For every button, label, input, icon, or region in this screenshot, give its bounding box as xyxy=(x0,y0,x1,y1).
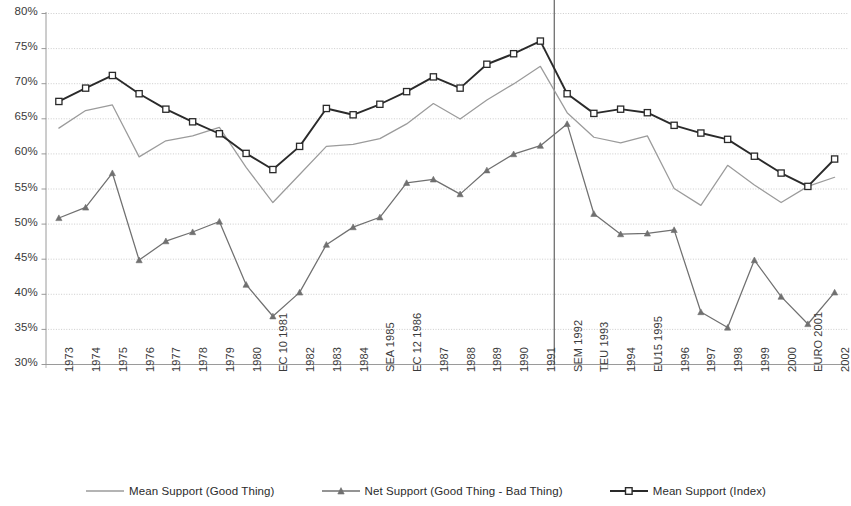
y-axis-label: 60% xyxy=(0,145,38,157)
x-axis-label: 1988 xyxy=(465,347,477,372)
data-point-marker xyxy=(564,121,570,127)
data-point-marker xyxy=(270,166,276,172)
data-point-marker xyxy=(216,218,222,224)
axis-lines xyxy=(42,12,849,368)
y-axis-label: 80% xyxy=(0,5,38,17)
x-axis-label: SEA 1985 xyxy=(384,322,396,372)
y-axis-label: 30% xyxy=(0,356,38,368)
x-axis-label: 1980 xyxy=(251,347,263,372)
data-point-marker xyxy=(725,324,731,330)
y-axis-label: 75% xyxy=(0,40,38,52)
series-line xyxy=(59,124,835,328)
x-axis-label: 1989 xyxy=(491,347,503,372)
data-point-marker xyxy=(751,257,757,263)
data-point-marker xyxy=(751,153,757,159)
legend-label: Net Support (Good Thing - Bad Thing) xyxy=(365,485,563,497)
x-axis-label: TEU 1993 xyxy=(598,322,610,372)
x-axis-label: 1979 xyxy=(224,347,236,372)
data-point-marker xyxy=(457,85,463,91)
chart-container: 80%75%70%65%60%55%50%45%40%35%30% 197319… xyxy=(0,0,851,506)
legend-label: Mean Support (Good Thing) xyxy=(129,485,274,497)
x-axis-label: 1987 xyxy=(438,347,450,372)
series-2 xyxy=(56,121,838,330)
data-point-marker xyxy=(243,282,249,288)
series-line xyxy=(59,66,835,205)
x-axis-label: EU15 1995 xyxy=(652,316,664,372)
x-axis-label: 1990 xyxy=(518,347,530,372)
x-axis-label: 1983 xyxy=(331,347,343,372)
x-axis-label: 1984 xyxy=(358,347,370,372)
data-point-marker xyxy=(56,98,62,104)
y-axis-label: 40% xyxy=(0,286,38,298)
x-axis-label: 1974 xyxy=(90,347,102,372)
data-point-marker xyxy=(671,122,677,128)
data-point-marker xyxy=(511,51,517,57)
y-axis-label: 55% xyxy=(0,181,38,193)
data-point-marker xyxy=(323,105,329,111)
y-axis-label: 35% xyxy=(0,321,38,333)
data-point-marker xyxy=(323,242,329,248)
data-point-marker xyxy=(591,211,597,217)
data-point-marker xyxy=(778,170,784,176)
data-point-marker xyxy=(430,74,436,80)
data-point-marker xyxy=(190,119,196,125)
y-axis-label: 50% xyxy=(0,216,38,228)
x-axis-label: 1997 xyxy=(705,347,717,372)
data-point-marker xyxy=(725,136,731,142)
data-point-marker xyxy=(297,143,303,149)
legend-label: Mean Support (Index) xyxy=(653,485,766,497)
x-axis-label: EC 10 1981 xyxy=(277,313,289,372)
data-point-marker xyxy=(564,91,570,97)
legend-item: Net Support (Good Thing - Bad Thing) xyxy=(321,485,563,497)
x-axis-label: 1973 xyxy=(63,347,75,372)
data-point-marker xyxy=(537,38,543,44)
gridlines xyxy=(46,14,849,365)
data-point-marker xyxy=(832,289,838,295)
data-point-marker xyxy=(243,150,249,156)
data-point-marker xyxy=(350,112,356,118)
x-axis-label: 2000 xyxy=(786,347,798,372)
legend-item: Mean Support (Index) xyxy=(609,485,766,497)
legend-swatch-square-open xyxy=(609,485,649,497)
data-point-marker xyxy=(484,61,490,67)
data-point-marker xyxy=(832,156,838,162)
x-axis-label: 1975 xyxy=(117,347,129,372)
data-point-marker xyxy=(591,110,597,116)
data-point-marker xyxy=(644,110,650,116)
data-point-marker xyxy=(136,91,142,97)
data-point-marker xyxy=(404,89,410,95)
data-point-marker xyxy=(484,167,490,173)
x-axis-label: 1991 xyxy=(545,347,557,372)
x-axis-label: 2002 xyxy=(839,347,851,372)
data-point-marker xyxy=(83,85,89,91)
data-point-marker xyxy=(698,130,704,136)
data-point-marker xyxy=(618,106,624,112)
series-3 xyxy=(56,38,838,190)
y-axis-label: 65% xyxy=(0,110,38,122)
x-axis-label: EURO 2001 xyxy=(812,312,824,372)
x-axis-label: 1996 xyxy=(679,347,691,372)
x-axis-label: SEM 1992 xyxy=(572,320,584,372)
x-axis-label: 1999 xyxy=(759,347,771,372)
x-axis-label: 1994 xyxy=(625,347,637,372)
chart-legend: Mean Support (Good Thing)Net Support (Go… xyxy=(0,478,851,504)
data-point-marker xyxy=(698,309,704,315)
data-point-marker xyxy=(163,106,169,112)
legend-item: Mean Support (Good Thing) xyxy=(85,485,274,497)
series-line xyxy=(59,41,835,186)
y-axis-label: 70% xyxy=(0,75,38,87)
data-point-marker xyxy=(109,72,115,78)
x-axis-label: 1976 xyxy=(144,347,156,372)
series-1 xyxy=(59,66,835,205)
data-point-marker xyxy=(377,101,383,107)
x-axis-label: 1978 xyxy=(197,347,209,372)
legend-swatch-line xyxy=(85,485,125,497)
data-point-marker xyxy=(216,131,222,137)
legend-swatch-triangle xyxy=(321,485,361,497)
x-axis-label: 1982 xyxy=(304,347,316,372)
x-axis-label: EC 12 1986 xyxy=(411,313,423,372)
data-point-marker xyxy=(297,289,303,295)
y-axis-label: 45% xyxy=(0,251,38,263)
data-point-marker xyxy=(805,183,811,189)
data-point-marker xyxy=(109,170,115,176)
